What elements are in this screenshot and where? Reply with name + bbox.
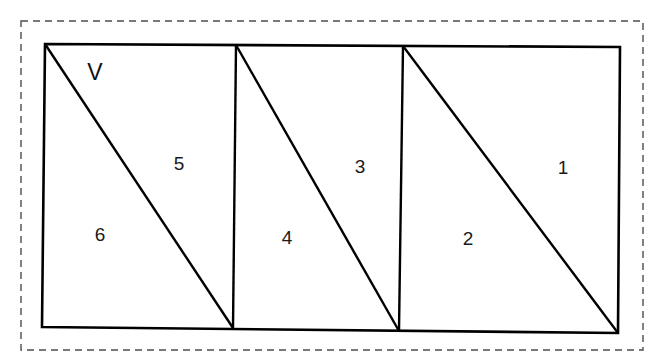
region-4-label: 4 <box>282 228 293 247</box>
region-2-label: 2 <box>463 229 474 248</box>
vertex-v-label: V <box>87 61 102 84</box>
geometry-diagram <box>0 0 650 352</box>
region-6-label: 6 <box>95 225 106 244</box>
region-3-label: 3 <box>355 157 366 176</box>
region-1-label: 1 <box>558 158 569 177</box>
outer-rectangle-outline <box>42 44 620 333</box>
region-5-label: 5 <box>174 154 185 173</box>
figure-container: 654321 V <box>0 0 650 352</box>
